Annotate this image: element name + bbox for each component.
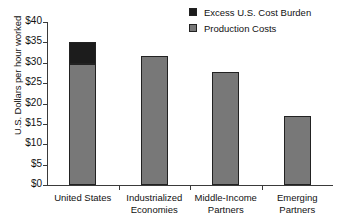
- bar-segment-production-costs[interactable]: [212, 72, 239, 185]
- bar-segment-excess-cost-burden[interactable]: [69, 42, 96, 64]
- y-tick-label: $35: [25, 35, 42, 46]
- x-axis-category-label: IndustrializedEconomies: [119, 192, 191, 215]
- legend-swatch-icon: [189, 8, 197, 16]
- y-tick-mark: [43, 104, 47, 105]
- y-tick-mark: [43, 124, 47, 125]
- y-tick-mark: [43, 165, 47, 166]
- y-tick-mark: [43, 63, 47, 64]
- legend-item[interactable]: Excess U.S. Cost Burden: [189, 5, 311, 19]
- chart-legend: Excess U.S. Cost BurdenProduction Costs: [189, 5, 311, 37]
- y-tick-mark: [43, 144, 47, 145]
- y-tick-label: $15: [25, 117, 42, 128]
- x-axis-category-line: United States: [47, 192, 119, 204]
- legend-label: Excess U.S. Cost Burden: [204, 7, 311, 18]
- x-axis-category-line: Middle-Income: [190, 192, 262, 204]
- y-tick-mark: [43, 83, 47, 84]
- y-tick-label: $5: [31, 158, 42, 169]
- legend-item[interactable]: Production Costs: [189, 21, 311, 35]
- x-axis-category-line: Economies: [119, 204, 191, 216]
- bar-segment-production-costs[interactable]: [141, 56, 168, 185]
- y-axis-line: [47, 22, 48, 185]
- y-tick-mark: [43, 22, 47, 23]
- x-axis-category-line: Emerging: [262, 192, 334, 204]
- legend-swatch-icon: [189, 24, 197, 32]
- y-axis-title: U.S. Dollars per hour worked: [12, 0, 23, 156]
- bar-segment-production-costs[interactable]: [69, 64, 96, 185]
- bar-segment-production-costs[interactable]: [284, 116, 311, 185]
- y-tick-label: $25: [25, 76, 42, 87]
- y-tick-label: $20: [25, 97, 42, 108]
- x-axis-category-label: Middle-IncomePartners: [190, 192, 262, 215]
- x-axis-category-label: United States: [47, 192, 119, 204]
- x-axis-separator-tick: [262, 185, 263, 190]
- x-axis-category-label: EmergingPartners: [262, 192, 334, 215]
- y-tick-label: $0: [31, 178, 42, 189]
- x-axis-separator-tick: [190, 185, 191, 190]
- x-axis-separator-tick: [119, 185, 120, 190]
- y-tick-mark: [43, 42, 47, 43]
- bar-group[interactable]: [212, 22, 239, 185]
- bar-group[interactable]: [141, 22, 168, 185]
- bar-chart: U.S. Dollars per hour worked $40$35$30$2…: [0, 0, 339, 222]
- x-axis-category-line: Industrialized: [119, 192, 191, 204]
- bar-group[interactable]: [69, 22, 96, 185]
- x-axis-category-line: Partners: [190, 204, 262, 216]
- legend-label: Production Costs: [204, 23, 276, 34]
- plot-area: $40$35$30$25$20$15$10$5$0 United StatesI…: [47, 22, 333, 185]
- bar-group[interactable]: [284, 22, 311, 185]
- y-tick-label: $30: [25, 56, 42, 67]
- x-axis-category-line: Partners: [262, 204, 334, 216]
- y-tick-label: $10: [25, 137, 42, 148]
- y-tick-mark: [43, 185, 47, 186]
- y-tick-label: $40: [25, 15, 42, 26]
